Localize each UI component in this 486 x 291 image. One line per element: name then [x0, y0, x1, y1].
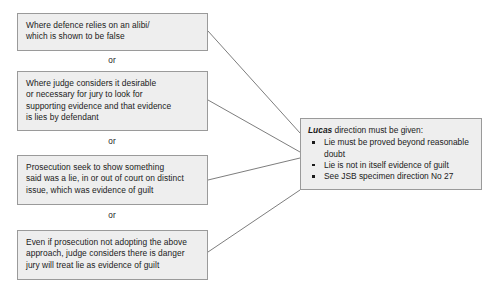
outcome-bullet-list: Lie must be proved beyond reasonable dou…	[308, 137, 475, 182]
outcome-bullet-text: Lie must be proved beyond reasonable dou…	[324, 137, 469, 158]
bullet-dot-icon	[312, 164, 315, 167]
outcome-bullet-item: Lie is not in itself evidence of guilt	[308, 160, 475, 171]
condition-line: is lies by defendant	[26, 112, 200, 123]
connector-prosecution-to-outcome	[208, 158, 300, 180]
outcome-bullet-item: See JSB specimen direction No 27	[308, 171, 475, 182]
condition-line: Where defence relies on an alibi/	[26, 20, 200, 31]
connector-judge-to-outcome	[208, 100, 300, 152]
condition-line: jury will treat lie as evidence of guilt	[26, 260, 200, 271]
bullet-dot-icon	[312, 175, 315, 178]
condition-line: Prosecution seek to show something	[26, 162, 200, 173]
condition-line: supporting evidence and that evidence	[26, 101, 200, 112]
separator-or-3: or	[92, 211, 132, 221]
bullet-dot-icon	[312, 141, 315, 144]
separator-or-1: or	[92, 56, 132, 66]
condition-box-judge-considers-desirable[interactable]: Where judge considers it desirable or ne…	[17, 71, 208, 131]
outcome-heading: Lucas direction must be given:	[308, 125, 475, 136]
outcome-bullet-text: See JSB specimen direction No 27	[324, 171, 453, 181]
condition-line: issue, which was evidence of guilt	[26, 185, 200, 196]
condition-box-prosecution-show-lie[interactable]: Prosecution seek to show something said …	[17, 155, 208, 205]
condition-line: said was a lie, in or out of court on di…	[26, 173, 200, 184]
outcome-box-lucas-direction[interactable]: Lucas direction must be given: Lie must …	[300, 118, 482, 190]
condition-line: which is shown to be false	[26, 31, 200, 42]
condition-line: or necessary for jury to look for	[26, 89, 200, 100]
connector-alibi-to-outcome	[208, 31, 300, 133]
connector-danger-to-outcome	[208, 190, 300, 252]
separator-or-2: or	[92, 137, 132, 147]
condition-line: Even if prosecution not adopting the abo…	[26, 237, 200, 248]
condition-box-danger-jury-treat-lie[interactable]: Even if prosecution not adopting the abo…	[17, 230, 208, 280]
outcome-bullet-item: Lie must be proved beyond reasonable dou…	[308, 137, 475, 160]
outcome-bullet-text: Lie is not in itself evidence of guilt	[324, 160, 449, 170]
condition-box-alibi[interactable]: Where defence relies on an alibi/ which …	[17, 13, 208, 51]
flowchart-canvas: Where defence relies on an alibi/ which …	[0, 0, 486, 291]
outcome-heading-emphasis: Lucas	[308, 125, 332, 135]
condition-line: approach, judge considers there is dange…	[26, 248, 200, 259]
condition-line: Where judge considers it desirable	[26, 78, 200, 89]
outcome-heading-rest: direction must be given:	[332, 125, 423, 135]
